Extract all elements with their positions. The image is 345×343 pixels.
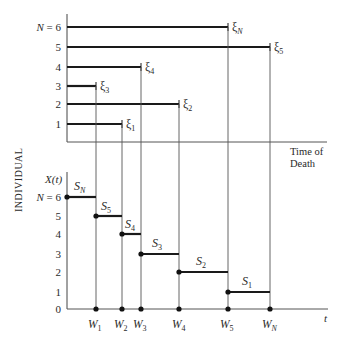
step-start-dots — [64, 194, 230, 294]
level-label-3: 3 — [56, 248, 62, 260]
waiting-label-W3: W3 — [133, 318, 147, 333]
y-axis-title-X-of-t: X(t) — [44, 173, 62, 186]
y-axis-label-individual: INDIVIDUAL — [13, 148, 24, 212]
lifetime-row-2 — [67, 100, 179, 108]
step-segments — [67, 197, 270, 292]
row-label-5: 5 — [56, 41, 62, 53]
xi-label-1: ξ1 — [126, 117, 135, 133]
waiting-label-W4: W4 — [172, 318, 186, 333]
xi-label-5: ξ5 — [274, 40, 283, 56]
level-label-2: 2 — [56, 266, 62, 278]
waiting-label-W5: W5 — [220, 318, 234, 333]
sojourn-label-S1: S1 — [242, 274, 252, 290]
x-axis-label-t: t — [324, 312, 328, 324]
level-label-4: 4 — [56, 228, 62, 240]
row-label-1: 1 — [56, 118, 62, 130]
row-label-2: 2 — [56, 98, 62, 110]
level-label-5: 5 — [56, 210, 62, 222]
xi-label-4: ξ4 — [145, 60, 154, 76]
xi-label-2: ξ2 — [183, 97, 192, 113]
level-label-0: 0 — [56, 303, 62, 315]
death-time-connectors — [96, 27, 270, 309]
lifetime-row-4 — [67, 63, 141, 71]
lifetime-row-1 — [67, 120, 122, 128]
waiting-label-WN: WN — [262, 318, 278, 333]
sojourn-label-S3: S3 — [152, 236, 162, 252]
top-x-axis-label-line1: Time of — [290, 146, 324, 157]
lifetime-row-3 — [67, 82, 96, 90]
level-label-6: N = 6 — [35, 191, 61, 203]
top-x-axis-label-line2: Death — [290, 158, 316, 169]
bottom-panel: X(t) t N = 6 5 4 3 2 1 0 — [35, 172, 328, 333]
waiting-label-W1: W1 — [88, 318, 102, 333]
xi-label-3: ξ3 — [100, 79, 109, 95]
sojourn-label-SN: SN — [74, 179, 86, 195]
sojourn-label-S2: S2 — [196, 254, 206, 270]
row-label-6: N = 6 — [35, 21, 61, 33]
sojourn-label-S4: S4 — [125, 217, 135, 233]
row-label-3: 3 — [56, 80, 62, 92]
level-label-1: 1 — [56, 286, 62, 298]
sojourn-label-S5: S5 — [101, 199, 111, 215]
lifetime-row-5 — [67, 43, 270, 51]
pure-death-process-diagram: INDIVIDUAL N = 6 5 — [0, 0, 345, 343]
top-panel: N = 6 5 4 3 2 1 ξN ξ5 ξ4 ξ3 ξ2 ξ1 Time o… — [35, 14, 327, 169]
lifetime-row-6 — [67, 23, 228, 31]
xi-label-N: ξN — [232, 20, 243, 36]
row-label-4: 4 — [56, 61, 62, 73]
waiting-label-W2: W2 — [114, 318, 128, 333]
